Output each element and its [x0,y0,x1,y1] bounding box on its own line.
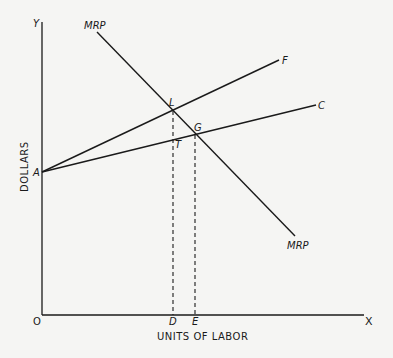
g-label: G [194,122,202,133]
y-axis-label: Y [33,18,40,29]
f-label: F [282,55,288,66]
x-axis-title: UNITS OF LABOR [157,331,248,342]
x-axis-label: X [365,315,373,328]
labor-market-diagram: Y MRP F C L G T A MRP O D E X UNITS OF L… [0,0,393,358]
mrp-top-label: MRP [84,20,107,31]
diagram-canvas: Y MRP F C L G T A MRP O D E X UNITS OF L… [0,0,393,358]
af-line [42,60,279,172]
l-label: L [169,97,175,108]
origin-label: O [33,316,41,327]
d-label: D [169,316,177,327]
c-label: C [318,100,325,111]
a-label: A [32,167,40,178]
mrp-bottom-label: MRP [287,240,310,251]
y-axis-title: DOLLARS [19,141,30,192]
e-label: E [192,316,199,327]
t-label: T [175,139,182,150]
